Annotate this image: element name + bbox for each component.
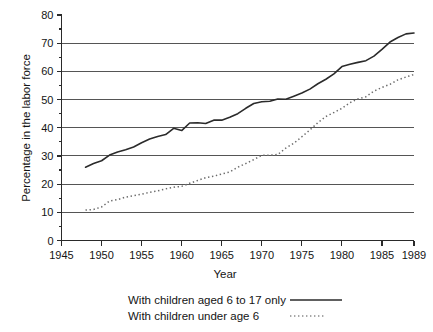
x-tick-labels: 1945195019551960196519701975198019851989 — [49, 249, 426, 261]
x-tick-label-1989: 1989 — [402, 249, 426, 261]
series-line-children-6-to-17 — [86, 33, 414, 167]
y-tick-label-30: 30 — [41, 150, 53, 162]
x-tick-label-1945: 1945 — [49, 249, 73, 261]
series-line-children-under-6 — [86, 74, 414, 210]
y-tick-label-10: 10 — [41, 206, 53, 218]
chart-figure: 01020304050607080 1945195019551960196519… — [0, 0, 433, 332]
y-tick-marks — [57, 15, 62, 241]
x-axis-title: Year — [213, 268, 236, 280]
y-tick-label-80: 80 — [41, 9, 53, 21]
x-tick-label-1985: 1985 — [370, 249, 394, 261]
x-tick-marks — [62, 241, 415, 246]
y-axis-title: Percentage in the labor force — [20, 54, 32, 202]
legend-label-children-under-6: With children under age 6 — [128, 310, 259, 322]
x-tick-label-1980: 1980 — [330, 249, 354, 261]
x-tick-label-1960: 1960 — [169, 249, 193, 261]
y-tick-label-50: 50 — [41, 94, 53, 106]
legend: With children aged 6 to 17 only With chi… — [128, 294, 342, 322]
x-tick-label-1955: 1955 — [129, 249, 153, 261]
y-tick-label-60: 60 — [41, 65, 53, 77]
x-tick-label-1975: 1975 — [290, 249, 314, 261]
x-tick-label-1950: 1950 — [89, 249, 113, 261]
y-tick-labels: 01020304050607080 — [41, 9, 53, 247]
y-tick-label-20: 20 — [41, 178, 53, 190]
y-tick-label-40: 40 — [41, 122, 53, 134]
x-tick-label-1970: 1970 — [250, 249, 274, 261]
y-tick-label-0: 0 — [47, 235, 53, 247]
y-gridlines — [62, 43, 415, 212]
y-tick-label-70: 70 — [41, 37, 53, 49]
line-chart: 01020304050607080 1945195019551960196519… — [0, 0, 433, 332]
x-tick-label-1965: 1965 — [209, 249, 233, 261]
legend-label-children-6-to-17: With children aged 6 to 17 only — [128, 294, 286, 306]
